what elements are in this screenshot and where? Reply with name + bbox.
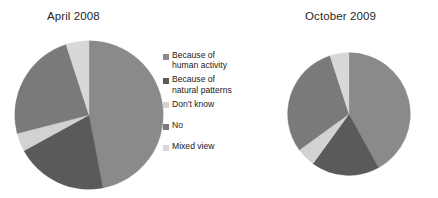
legend-swatch-icon — [163, 78, 169, 84]
legend-item: Because of human activity — [163, 50, 259, 70]
legend-swatch-icon — [163, 102, 169, 108]
legend-item-label: No — [172, 120, 183, 130]
pie-slice — [89, 41, 163, 188]
legend-item-label: Don't know — [172, 99, 214, 109]
legend-item: No — [163, 120, 259, 130]
pie-chart-figure: April 2008 October 2009 Because of human… — [0, 0, 438, 198]
chart-title-april: April 2008 — [47, 10, 100, 22]
legend-item-label: Because of human activity — [172, 50, 227, 70]
legend-item-label: Mixed view — [172, 141, 215, 151]
pie-october-svg — [287, 52, 411, 176]
legend-item: Because of natural patterns — [163, 74, 259, 94]
pie-chart-october-2009 — [287, 52, 411, 176]
pie-chart-april-2008 — [14, 40, 164, 190]
pie-april-svg — [14, 40, 164, 190]
chart-title-october: October 2009 — [305, 10, 376, 22]
legend-swatch-icon — [163, 124, 169, 130]
legend-item: Mixed view — [163, 141, 259, 151]
chart-legend: Because of human activityBecause of natu… — [163, 50, 259, 155]
legend-swatch-icon — [163, 145, 169, 151]
legend-swatch-icon — [163, 54, 169, 60]
legend-item-label: Because of natural patterns — [172, 74, 232, 94]
legend-item: Don't know — [163, 99, 259, 109]
